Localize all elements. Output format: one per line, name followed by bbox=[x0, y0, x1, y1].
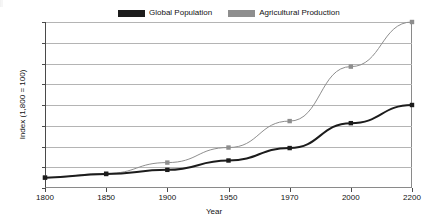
x-tick-label: 1970 bbox=[260, 194, 320, 202]
x-tick-label: 1800 bbox=[15, 194, 75, 202]
x-tick-mark bbox=[290, 188, 291, 192]
data-point-marker bbox=[410, 20, 414, 24]
series-layer bbox=[45, 22, 412, 188]
x-axis-title: Year bbox=[0, 207, 428, 216]
x-tick-label: 1850 bbox=[76, 194, 136, 202]
legend-entry-global-population: Global Population bbox=[118, 8, 212, 18]
data-point-marker bbox=[43, 175, 47, 179]
legend-swatch-agricultural-production bbox=[228, 10, 255, 17]
data-point-marker bbox=[226, 158, 230, 162]
data-point-marker bbox=[226, 145, 230, 149]
legend-swatch-global-population bbox=[118, 10, 145, 17]
data-point-marker bbox=[410, 103, 414, 107]
data-point-marker bbox=[165, 168, 169, 172]
x-tick-mark bbox=[106, 188, 107, 192]
legend-label-agricultural-production: Agricultural Production bbox=[259, 8, 339, 18]
x-tick-mark bbox=[167, 188, 168, 192]
legend-label-global-population: Global Population bbox=[149, 8, 212, 18]
series-line-agricultural-production bbox=[45, 22, 412, 178]
y-axis-title: Index (1,800 = 100) bbox=[18, 45, 27, 165]
scan-noise-artifact bbox=[0, 0, 428, 7]
data-point-marker bbox=[287, 146, 291, 150]
x-tick-label: 1950 bbox=[199, 194, 259, 202]
x-tick-label: 1900 bbox=[137, 194, 197, 202]
plot-area: 02004006008001,0001,2001,4001,600 180018… bbox=[45, 22, 412, 188]
x-tick-mark bbox=[45, 188, 46, 192]
series-line-global-population bbox=[45, 105, 412, 178]
x-tick-mark bbox=[412, 188, 413, 192]
data-point-marker bbox=[349, 121, 353, 125]
legend-entry-agricultural-production: Agricultural Production bbox=[228, 8, 339, 18]
x-tick-mark bbox=[351, 188, 352, 192]
chart-container: Global Population Agricultural Productio… bbox=[0, 0, 428, 221]
data-point-marker bbox=[104, 172, 108, 176]
data-point-marker bbox=[287, 119, 291, 123]
x-tick-mark bbox=[229, 188, 230, 192]
x-tick-label: 2200 bbox=[382, 194, 428, 202]
chart-legend: Global Population Agricultural Productio… bbox=[118, 8, 340, 18]
data-point-marker bbox=[349, 64, 353, 68]
data-point-marker bbox=[165, 160, 169, 164]
x-tick-label: 2000 bbox=[321, 194, 381, 202]
